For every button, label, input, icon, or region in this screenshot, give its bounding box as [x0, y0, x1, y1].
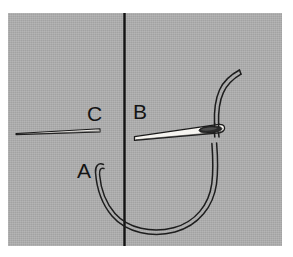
label-b: B	[133, 101, 147, 122]
thread-loop	[95, 143, 217, 234]
label-c: C	[87, 103, 102, 124]
label-a: A	[77, 160, 91, 181]
diagram-artwork	[0, 0, 293, 257]
thread-tail	[214, 70, 241, 125]
figure-screenshot: C B A	[0, 0, 293, 257]
